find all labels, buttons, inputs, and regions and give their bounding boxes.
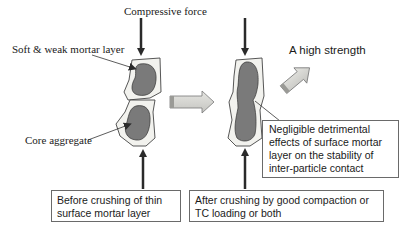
negligible-line-3: layer on the stability of — [269, 149, 392, 162]
after-line-2: TC loading or both — [195, 207, 378, 220]
transition-block-arrow — [170, 91, 214, 113]
particle-lower-before — [116, 100, 155, 146]
core-aggregate-label: Core aggregate — [25, 134, 92, 146]
particle-combined-after — [228, 58, 264, 146]
mortar-layer-label: Soft & weak mortar layer — [12, 43, 124, 55]
negligible-line-2: effects of surface mortar — [269, 136, 392, 149]
after-crushing-box: After crushing by good compaction or TC … — [189, 190, 384, 222]
particle-upper-before — [124, 58, 161, 100]
before-line-1: Before crushing of thin — [57, 194, 175, 207]
diagram-canvas: Compressive force Soft & weak mortar lay… — [0, 0, 401, 234]
high-strength-label: A high strength — [289, 44, 366, 56]
before-crushing-box: Before crushing of thin surface mortar l… — [51, 190, 181, 222]
negligible-line-1: Negligible detrimental — [269, 123, 392, 136]
negligible-line-4: inter-particle contact — [269, 162, 392, 175]
negligible-effects-box: Negligible detrimental effects of surfac… — [262, 120, 399, 178]
after-line-1: After crushing by good compaction or — [195, 194, 378, 207]
before-line-2: surface mortar layer — [57, 207, 175, 220]
high-strength-block-arrow — [277, 60, 316, 97]
compressive-force-label: Compressive force — [124, 5, 207, 17]
mortar-layer-leader — [92, 55, 133, 68]
